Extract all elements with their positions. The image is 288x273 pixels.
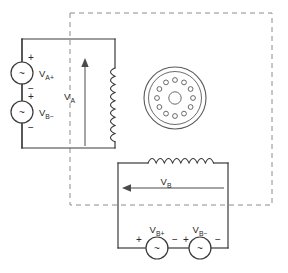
source-vb-plus-waveform: ~ bbox=[154, 243, 160, 254]
circuit-diagram: ~ + − VA+ ~ + − VB− VA bbox=[0, 0, 288, 273]
machine-slot bbox=[164, 80, 169, 85]
machine-slot bbox=[188, 105, 193, 110]
arrow-vb-label: VB bbox=[161, 176, 172, 189]
source-va-plus-label: VA+ bbox=[39, 68, 54, 81]
machine-slot bbox=[155, 96, 160, 101]
winding-b-coil bbox=[148, 159, 214, 164]
machine-slot bbox=[182, 80, 187, 85]
machine-slot bbox=[182, 111, 187, 116]
machine-slot bbox=[157, 87, 162, 92]
source-va-plus-top-sign: + bbox=[28, 52, 34, 63]
machine-slot bbox=[191, 96, 196, 101]
source-va-plus-waveform: ~ bbox=[19, 68, 25, 79]
machine-slot bbox=[157, 105, 162, 110]
source-vb-minus-waveform: ~ bbox=[19, 107, 25, 118]
source-vb-plus-label: VB+ bbox=[150, 224, 165, 237]
machine-slot bbox=[173, 114, 178, 119]
winding-a-coil bbox=[111, 68, 116, 142]
source-vb-minus-2-label: VB− bbox=[193, 224, 208, 237]
arrow-va-label: VA bbox=[64, 91, 75, 104]
source-vb-minus-label: VB− bbox=[39, 107, 54, 120]
machine-center-bore bbox=[169, 92, 181, 104]
source-vb-minus-2-right-sign: − bbox=[215, 234, 221, 245]
source-vb-minus-bottom-sign: − bbox=[28, 122, 34, 133]
source-vb-minus-2-left-sign: + bbox=[183, 234, 189, 245]
machine-slot bbox=[188, 87, 193, 92]
machine-cross-section bbox=[144, 67, 206, 129]
arrow-vb-head bbox=[122, 184, 131, 191]
source-vb-plus-left-sign: + bbox=[136, 234, 142, 245]
diagram-canvas: ~ + − VA+ ~ + − VB− VA bbox=[0, 0, 288, 273]
machine-slot bbox=[173, 78, 178, 83]
arrow-va-head bbox=[81, 58, 88, 67]
machine-slot bbox=[164, 111, 169, 116]
source-vb-minus-2-waveform: ~ bbox=[197, 243, 203, 254]
source-vb-plus-right-sign: − bbox=[172, 234, 178, 245]
source-vb-minus-top-sign: + bbox=[28, 91, 34, 102]
